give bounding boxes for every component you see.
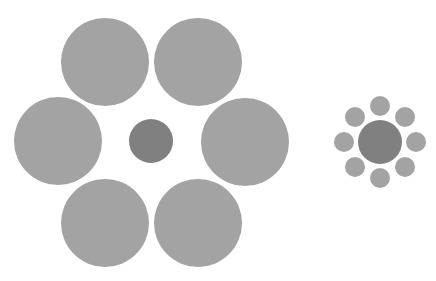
surround-circle — [370, 96, 390, 116]
surround-circle — [395, 107, 415, 127]
surround-circle — [345, 107, 365, 127]
surround-circle — [201, 98, 289, 186]
large-surround-group — [14, 18, 289, 267]
surround-circle — [395, 157, 415, 177]
surround-circle — [345, 157, 365, 177]
surround-circle — [154, 179, 242, 267]
surround-circle — [334, 132, 354, 152]
ebbinghaus-figure — [0, 0, 436, 281]
surround-circle — [61, 18, 149, 106]
surround-circle — [61, 179, 149, 267]
surround-circle — [406, 132, 426, 152]
illusion-canvas — [0, 0, 436, 281]
surround-circle — [370, 168, 390, 188]
surround-circle — [154, 18, 242, 106]
surround-circle — [14, 97, 102, 185]
small-surround-group — [334, 96, 426, 188]
center-circle — [358, 120, 402, 164]
center-circle — [129, 119, 173, 163]
